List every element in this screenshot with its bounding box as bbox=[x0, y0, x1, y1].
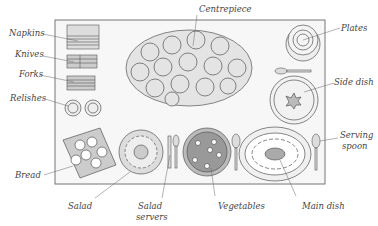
label-serving-spoon-line2: spoon bbox=[342, 141, 368, 151]
label-plates: Plates bbox=[341, 23, 367, 33]
label-side-dish: Side dish bbox=[334, 77, 374, 87]
side-dish-icon bbox=[270, 76, 318, 124]
label-vegetables: Vegetables bbox=[218, 201, 265, 211]
forks-icon bbox=[67, 76, 95, 90]
plates-icon bbox=[286, 25, 320, 61]
salad-bowl-icon bbox=[119, 130, 163, 174]
label-forks: Forks bbox=[19, 69, 43, 79]
buffet-diagram bbox=[0, 0, 378, 226]
centrepiece-flowers-icon bbox=[126, 30, 252, 106]
label-salad-servers-line1: Salad bbox=[138, 201, 162, 211]
label-centrepiece: Centrepiece bbox=[199, 4, 252, 14]
label-napkins: Napkins bbox=[9, 28, 45, 38]
label-knives: Knives bbox=[15, 49, 44, 59]
main-dish-platter-icon bbox=[239, 127, 311, 181]
label-bread: Bread bbox=[15, 170, 41, 180]
vegetables-dish-icon bbox=[183, 128, 231, 176]
napkins-icon bbox=[67, 25, 99, 49]
label-main-dish: Main dish bbox=[302, 201, 345, 211]
label-serving-spoon-line1: Serving bbox=[340, 130, 373, 140]
label-relishes: Relishes bbox=[10, 93, 46, 103]
label-salad: Salad bbox=[68, 201, 92, 211]
label-salad-servers-line2: servers bbox=[136, 212, 168, 222]
